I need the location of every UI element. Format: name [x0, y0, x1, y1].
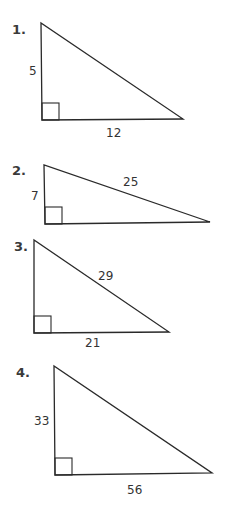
vertical-leg-label: 33	[34, 414, 49, 428]
hypotenuse-label: 29	[98, 269, 113, 283]
problem-number: 4.	[16, 365, 30, 380]
triangle-problems-canvas: 1.5122.7253.29214.3356	[0, 0, 235, 511]
horizontal-leg-label: 56	[127, 483, 142, 497]
problem-number: 3.	[14, 239, 28, 254]
problem-number: 1.	[12, 22, 26, 37]
right-angle-marker	[34, 316, 51, 333]
vertical-leg-label: 7	[31, 189, 39, 203]
problem-1: 1.512	[12, 22, 183, 140]
right-triangle	[34, 240, 169, 333]
right-angle-marker	[42, 103, 59, 120]
hypotenuse-label: 25	[123, 175, 138, 189]
problem-2: 2.725	[12, 163, 210, 224]
right-triangle	[44, 165, 210, 224]
horizontal-leg-label: 12	[106, 126, 121, 140]
horizontal-leg-label: 21	[85, 336, 100, 350]
problem-number: 2.	[12, 163, 26, 178]
problem-3: 3.2921	[14, 239, 169, 350]
problem-4: 4.3356	[16, 365, 212, 497]
right-triangle	[54, 366, 212, 475]
right-angle-marker	[55, 458, 72, 475]
vertical-leg-label: 5	[29, 64, 37, 78]
right-triangle	[41, 23, 183, 120]
right-angle-marker	[45, 207, 62, 224]
